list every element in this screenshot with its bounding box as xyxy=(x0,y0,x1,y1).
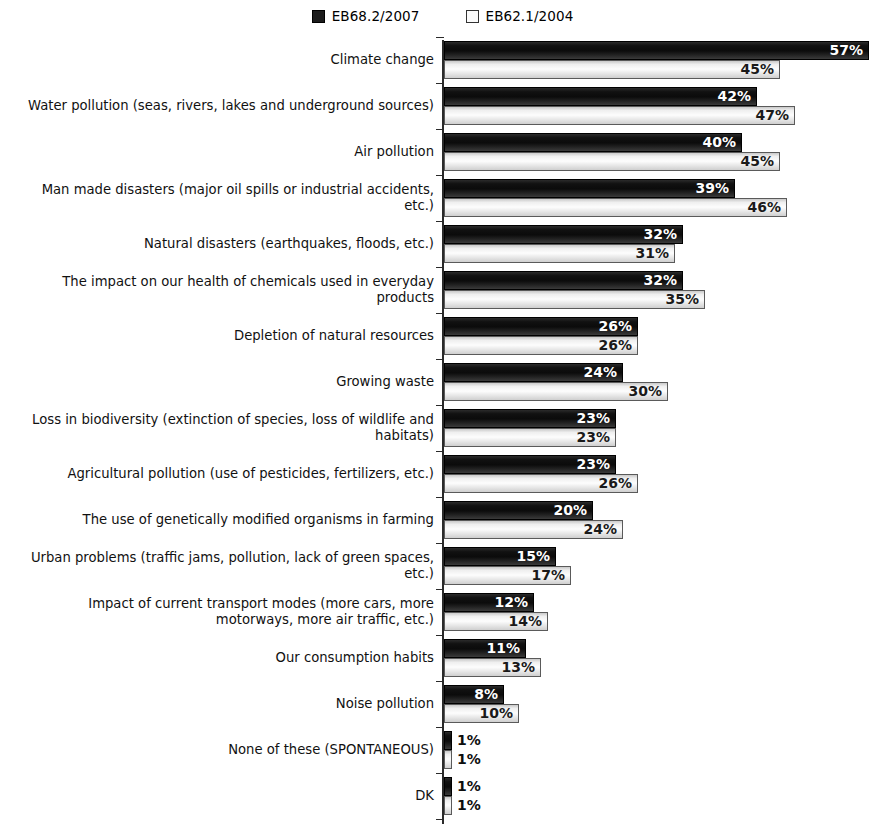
category-label: Noise pollution xyxy=(14,685,434,723)
outlined-square-icon xyxy=(466,10,479,23)
category-label: Loss in biodiversity (extinction of spec… xyxy=(14,409,434,447)
bar-row: None of these (SPONTANEOUS)1%1% xyxy=(0,731,885,769)
bar-row: Water pollution (seas, rivers, lakes and… xyxy=(0,87,885,125)
bar-value-label: 45% xyxy=(444,60,780,79)
bar-value-label: 40% xyxy=(444,133,742,152)
category-label: Agricultural pollution (use of pesticide… xyxy=(14,455,434,493)
bar-row: Growing waste24%30% xyxy=(0,363,885,401)
bar-dark[interactable] xyxy=(444,731,452,750)
axis-tick-end xyxy=(436,819,444,820)
bar-light[interactable] xyxy=(444,750,452,769)
bar-light[interactable] xyxy=(444,796,452,815)
bar-chart-plot-area: Climate change57%45%Water pollution (sea… xyxy=(0,36,885,828)
bar-value-label: 35% xyxy=(444,290,705,309)
bar-value-label: 1% xyxy=(457,731,481,750)
category-label: Urban problems (traffic jams, pollution,… xyxy=(14,547,434,585)
bar-value-label: 23% xyxy=(444,428,616,447)
bar-row: DK1%1% xyxy=(0,777,885,815)
bar-row: Noise pollution8%10% xyxy=(0,685,885,723)
axis-tick xyxy=(436,175,444,176)
axis-tick xyxy=(436,635,444,636)
bar-value-label: 12% xyxy=(444,593,534,612)
category-label: None of these (SPONTANEOUS) xyxy=(14,731,434,769)
bar-value-label: 20% xyxy=(444,501,593,520)
bar-value-label: 8% xyxy=(444,685,504,704)
axis-tick xyxy=(436,359,444,360)
bar-value-label: 47% xyxy=(444,106,795,125)
axis-tick xyxy=(436,405,444,406)
bar-row: Impact of current transport modes (more … xyxy=(0,593,885,631)
bar-row: The impact on our health of chemicals us… xyxy=(0,271,885,309)
bar-row: Depletion of natural resources26%26% xyxy=(0,317,885,355)
legend-label-eb68: EB68.2/2007 xyxy=(332,8,420,24)
bar-value-label: 26% xyxy=(444,336,638,355)
category-label: The use of genetically modified organism… xyxy=(14,501,434,539)
filled-square-icon xyxy=(312,10,325,23)
axis-tick xyxy=(436,543,444,544)
axis-tick xyxy=(436,451,444,452)
bar-value-label: 23% xyxy=(444,455,616,474)
bar-value-label: 32% xyxy=(444,225,683,244)
bar-value-label: 10% xyxy=(444,704,519,723)
legend-label-eb62: EB62.1/2004 xyxy=(486,8,574,24)
axis-tick xyxy=(436,267,444,268)
bar-value-label: 15% xyxy=(444,547,556,566)
category-label: Natural disasters (earthquakes, floods, … xyxy=(14,225,434,263)
bar-value-label: 1% xyxy=(457,750,481,769)
bar-row: Loss in biodiversity (extinction of spec… xyxy=(0,409,885,447)
bar-value-label: 32% xyxy=(444,271,683,290)
axis-tick xyxy=(436,313,444,314)
bar-value-label: 1% xyxy=(457,796,481,815)
axis-tick xyxy=(436,727,444,728)
bar-row: Agricultural pollution (use of pesticide… xyxy=(0,455,885,493)
category-label: Impact of current transport modes (more … xyxy=(14,593,434,631)
axis-tick xyxy=(436,83,444,84)
bar-value-label: 26% xyxy=(444,474,638,493)
category-label: Man made disasters (major oil spills or … xyxy=(14,179,434,217)
bar-value-label: 30% xyxy=(444,382,668,401)
bar-row: The use of genetically modified organism… xyxy=(0,501,885,539)
category-label: The impact on our health of chemicals us… xyxy=(14,271,434,309)
bar-value-label: 23% xyxy=(444,409,616,428)
axis-tick xyxy=(436,221,444,222)
category-label: Depletion of natural resources xyxy=(14,317,434,355)
bar-value-label: 26% xyxy=(444,317,638,336)
bar-value-label: 57% xyxy=(444,41,869,60)
bar-row: Our consumption habits11%13% xyxy=(0,639,885,677)
category-label: Air pollution xyxy=(14,133,434,171)
bar-row: Man made disasters (major oil spills or … xyxy=(0,179,885,217)
bar-value-label: 45% xyxy=(444,152,780,171)
legend-entry-eb62: EB62.1/2004 xyxy=(466,8,574,24)
axis-tick xyxy=(436,589,444,590)
axis-tick xyxy=(436,497,444,498)
category-label: Growing waste xyxy=(14,363,434,401)
category-label: Our consumption habits xyxy=(14,639,434,677)
chart-legend: EB68.2/2007 EB62.1/2004 xyxy=(0,4,885,28)
bar-row: Climate change57%45% xyxy=(0,41,885,79)
bar-value-label: 11% xyxy=(444,639,526,658)
bar-row: Air pollution40%45% xyxy=(0,133,885,171)
bar-value-label: 42% xyxy=(444,87,757,106)
bar-value-label: 31% xyxy=(444,244,675,263)
bar-value-label: 39% xyxy=(444,179,735,198)
bar-value-label: 17% xyxy=(444,566,571,585)
axis-tick xyxy=(436,37,444,38)
bar-value-label: 13% xyxy=(444,658,541,677)
bar-value-label: 1% xyxy=(457,777,481,796)
bar-dark[interactable] xyxy=(444,777,452,796)
bar-value-label: 14% xyxy=(444,612,548,631)
bar-value-label: 24% xyxy=(444,520,623,539)
bar-value-label: 24% xyxy=(444,363,623,382)
axis-tick xyxy=(436,129,444,130)
bar-value-label: 46% xyxy=(444,198,787,217)
bar-row: Urban problems (traffic jams, pollution,… xyxy=(0,547,885,585)
legend-entry-eb68: EB68.2/2007 xyxy=(312,8,420,24)
bar-row: Natural disasters (earthquakes, floods, … xyxy=(0,225,885,263)
axis-tick xyxy=(436,773,444,774)
axis-tick xyxy=(436,681,444,682)
category-label: DK xyxy=(14,777,434,815)
category-label: Climate change xyxy=(14,41,434,79)
category-label: Water pollution (seas, rivers, lakes and… xyxy=(14,87,434,125)
